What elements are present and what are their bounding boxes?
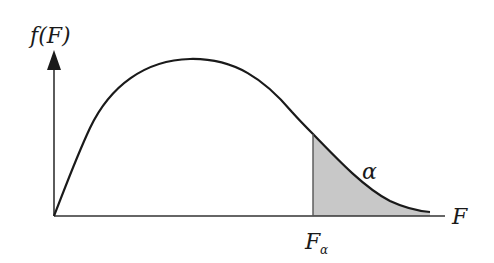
f-distribution-diagram: f(F) F α F α: [0, 0, 494, 263]
tail-area-label: α: [362, 159, 377, 184]
critical-value-label: F: [304, 229, 321, 254]
x-axis-label: F: [451, 204, 468, 229]
y-axis-arrow-icon: [47, 50, 61, 70]
y-axis-label: f(F): [28, 23, 71, 48]
critical-value-subscript: α: [320, 243, 328, 257]
